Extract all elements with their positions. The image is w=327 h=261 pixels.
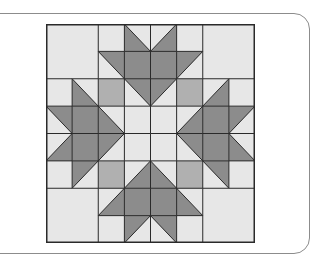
dark-square [203,134,229,161]
medium-square [98,161,124,188]
dark-square [151,188,177,215]
dark-square [124,51,150,78]
medium-square [177,79,203,106]
dark-square [72,106,98,133]
dark-square [151,51,177,78]
dark-square [203,106,229,133]
medium-square [98,79,124,106]
quilt-block [46,24,255,243]
quilt-block-svg [46,24,255,243]
dark-square [124,188,150,215]
medium-square [177,161,203,188]
dark-square [72,134,98,161]
